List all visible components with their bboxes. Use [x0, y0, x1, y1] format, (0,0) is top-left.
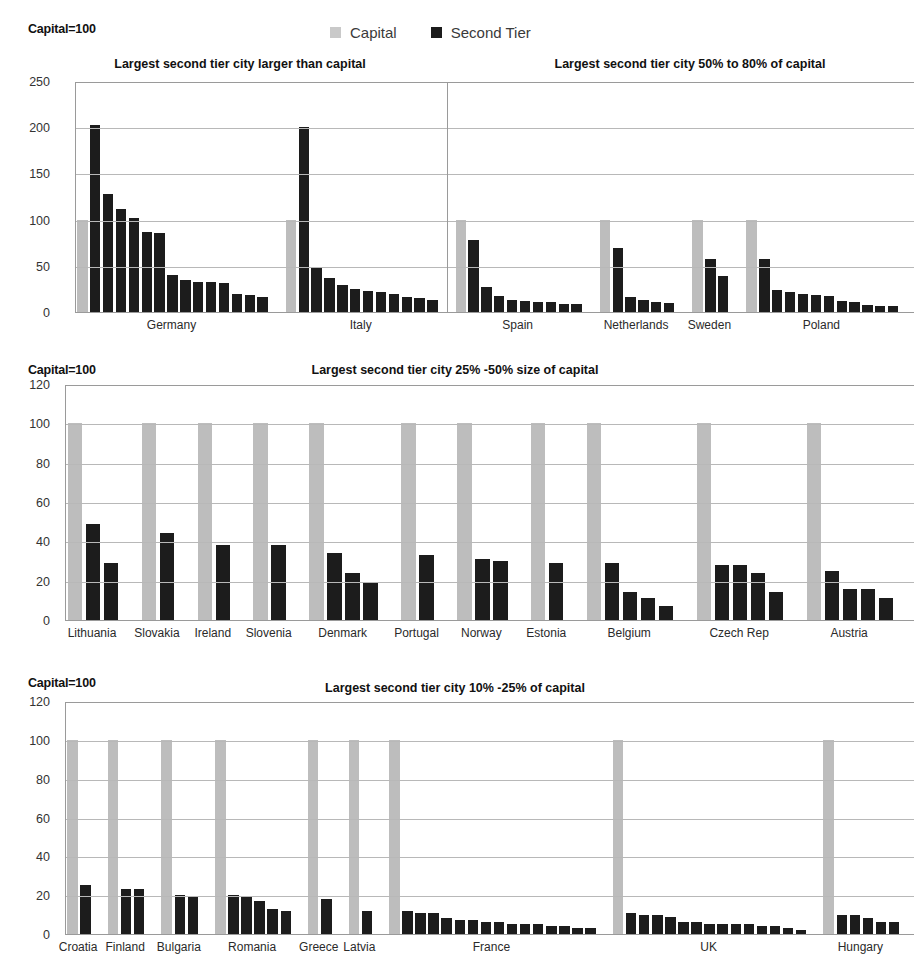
bar-capital	[746, 220, 756, 312]
bar-capital	[600, 220, 610, 312]
bar-second-tier	[167, 275, 177, 312]
bar-capital	[613, 740, 623, 934]
panel-title-1a: Largest second tier city larger than cap…	[95, 57, 385, 71]
y-axis-tick-label: 120	[29, 695, 50, 709]
x-axis-group-label: Finland	[105, 940, 144, 954]
bar-second-tier	[717, 924, 727, 934]
y-axis-tick-label: 80	[36, 773, 50, 787]
y-axis-tick-label: 80	[36, 457, 50, 471]
gridline	[66, 741, 914, 742]
bar-second-tier	[638, 300, 648, 312]
bar-second-tier	[533, 302, 543, 312]
bar-second-tier	[837, 301, 847, 312]
x-axis-group-label: Greece	[299, 940, 338, 954]
y-axis-tick-label: 20	[36, 575, 50, 589]
bar-second-tier	[180, 280, 190, 312]
bar-second-tier	[520, 924, 530, 934]
x-axis-group-label: Estonia	[526, 626, 566, 640]
y-axis-tick-label: 40	[36, 850, 50, 864]
bar-second-tier	[175, 895, 185, 934]
x-axis-group-label: Norway	[461, 626, 502, 640]
gridline	[76, 267, 914, 268]
bar-second-tier	[468, 240, 478, 312]
y-axis-tick-label: 150	[29, 167, 50, 181]
bar-second-tier	[345, 573, 359, 620]
chart-panel-middle: Capital=100 Largest second tier city 25%…	[0, 355, 913, 655]
x-axis-group-label: Romania	[228, 940, 276, 954]
bar-second-tier	[154, 233, 164, 312]
bar-second-tier	[862, 305, 872, 312]
gridline	[66, 464, 914, 465]
gridline	[76, 128, 914, 129]
bar-second-tier	[825, 571, 839, 620]
x-axis-group-label: Bulgaria	[157, 940, 201, 954]
bar-second-tier	[427, 300, 437, 312]
bar-second-tier	[718, 276, 728, 312]
gridline	[76, 82, 914, 83]
bar-second-tier	[481, 922, 491, 934]
bar-second-tier	[507, 924, 517, 934]
bar-capital	[823, 740, 833, 934]
bar-second-tier	[585, 928, 595, 934]
chart-panel-bottom: Capital=100 Largest second tier city 10%…	[0, 668, 913, 976]
x-axis-group-label: Italy	[350, 318, 372, 332]
bar-second-tier	[257, 297, 267, 312]
y-axis-tick-label: 120	[29, 378, 50, 392]
bar-second-tier	[493, 561, 507, 620]
bar-second-tier	[402, 911, 412, 934]
bar-second-tier	[193, 282, 203, 312]
bar-second-tier	[770, 926, 780, 934]
bar-second-tier	[103, 194, 113, 312]
y-axis-tick-label: 200	[29, 121, 50, 135]
bar-capital	[456, 220, 466, 312]
bar-second-tier	[481, 287, 491, 312]
bar-second-tier	[659, 606, 673, 620]
plot-area-3: 020406080100120 CroatiaFinlandBulgariaRo…	[20, 702, 913, 947]
bars-container-1	[76, 82, 914, 312]
bar-second-tier	[733, 565, 747, 620]
bar-second-tier	[559, 926, 569, 934]
x-axis-group-label: Czech Rep	[709, 626, 768, 640]
bar-capital	[68, 423, 82, 620]
bar-second-tier	[321, 899, 331, 934]
gridline	[66, 857, 914, 858]
x-axis-group-label: UK	[700, 940, 717, 954]
bar-capital	[309, 423, 323, 620]
y-axis-tick-label: 100	[29, 734, 50, 748]
y-axis-tick-label: 250	[29, 75, 50, 89]
bar-capital	[457, 423, 471, 620]
bar-second-tier	[546, 302, 556, 312]
x-axis-group-label: Slovenia	[246, 626, 292, 640]
bar-second-tier	[376, 292, 386, 312]
bar-second-tier	[402, 297, 412, 312]
gridline	[66, 582, 914, 583]
bar-second-tier	[206, 282, 216, 312]
x-axis-group-label: Latvia	[343, 940, 375, 954]
bar-second-tier	[245, 295, 255, 312]
y-axis-tick-label: 100	[29, 417, 50, 431]
gridline	[66, 424, 914, 425]
plot-3	[65, 702, 914, 935]
bar-capital	[142, 423, 156, 620]
bar-second-tier	[241, 897, 251, 934]
bar-second-tier	[623, 592, 637, 620]
bar-second-tier	[652, 915, 662, 934]
bar-capital	[108, 740, 118, 934]
x-axis-group-label: France	[473, 940, 510, 954]
gridline	[66, 780, 914, 781]
bar-second-tier	[626, 913, 636, 934]
bar-second-tier	[824, 296, 834, 312]
gridline	[76, 174, 914, 175]
bar-second-tier	[888, 306, 898, 312]
bar-second-tier	[605, 563, 619, 620]
bar-second-tier	[678, 922, 688, 934]
gridline	[66, 702, 914, 703]
y-axis-tick-label: 0	[43, 928, 50, 942]
y-axis-tick-label: 100	[29, 214, 50, 228]
bar-second-tier	[744, 924, 754, 934]
plot-area-2: 020406080100120 LithuaniaSlovakiaIreland…	[20, 385, 913, 630]
bar-capital	[401, 423, 415, 620]
capital-note-3: Capital=100	[28, 676, 96, 690]
bar-second-tier	[879, 598, 893, 620]
bar-second-tier	[639, 915, 649, 934]
